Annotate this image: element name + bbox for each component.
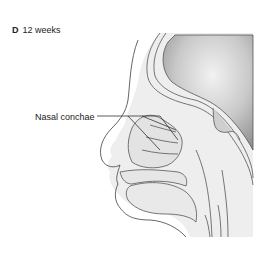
sagittal-head-diagram bbox=[0, 0, 269, 257]
